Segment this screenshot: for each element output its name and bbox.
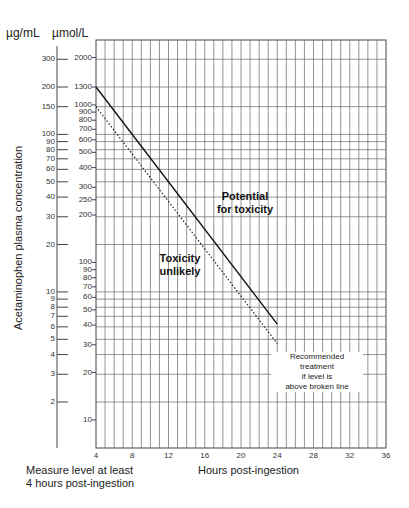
x-tick-label: 16 xyxy=(200,451,209,460)
ug-tick-label: 80 xyxy=(20,146,55,154)
x-tick-label: 12 xyxy=(164,451,173,460)
umol-tick-label: 30 xyxy=(58,341,92,349)
umol-tick-label: 500 xyxy=(58,148,92,156)
ug-tick-label: 300 xyxy=(20,55,55,63)
umol-tick-label: 20 xyxy=(58,369,92,377)
x-tick-label: 24 xyxy=(273,451,282,460)
ug-tick-label: 60 xyxy=(20,165,55,173)
ug-tick-label: 200 xyxy=(20,83,55,91)
umol-tick-label: 70 xyxy=(58,283,92,291)
umol-tick-label: 600 xyxy=(58,136,92,144)
ug-tick-label: 5 xyxy=(20,335,55,343)
treatment-note-line2: if level is xyxy=(272,372,362,382)
ug-tick-label: 6 xyxy=(20,323,55,331)
ug-tick-label: 50 xyxy=(20,178,55,186)
umol-tick-label: 10 xyxy=(58,416,92,424)
x-tick-label: 36 xyxy=(382,451,391,460)
x-axis-label: Hours post-ingestion xyxy=(198,464,299,477)
ug-tick-label: 150 xyxy=(20,103,55,111)
umol-tick-label: 1300 xyxy=(58,83,92,91)
ug-tick-label: 20 xyxy=(20,241,55,249)
umol-tick-label: 400 xyxy=(58,164,92,172)
umol-tick-label: 250 xyxy=(58,196,92,204)
umol-tick-label: 2000 xyxy=(58,54,92,62)
potential-toxicity-line2: for toxicity xyxy=(205,203,285,216)
ug-tick-label: 30 xyxy=(20,213,55,221)
treatment-note-line3: above broken line xyxy=(272,382,362,392)
umol-tick-label: 200 xyxy=(58,211,92,219)
ug-tick-label: 70 xyxy=(20,155,55,163)
x-tick-label: 20 xyxy=(237,451,246,460)
ug-tick-label: 8 xyxy=(20,303,55,311)
ug-tick-label: 9 xyxy=(20,295,55,303)
potential-toxicity-label: Potential for toxicity xyxy=(205,190,285,216)
treatment-note: Recommended treatment if level is above … xyxy=(271,352,363,392)
umol-tick-label: 700 xyxy=(58,125,92,133)
umol-tick-label: 60 xyxy=(58,293,92,301)
ug-tick-label: 3 xyxy=(20,370,55,378)
umol-tick-label: 40 xyxy=(58,321,92,329)
x-tick-label: 4 xyxy=(94,451,98,460)
ug-tick-label: 7 xyxy=(20,312,55,320)
x-tick-label: 32 xyxy=(345,451,354,460)
ug-tick-label: 2 xyxy=(20,398,55,406)
toxicity-unlikely-label: Toxicity unlikely xyxy=(145,252,215,278)
umol-tick-label: 800 xyxy=(58,116,92,124)
ug-tick-label: 40 xyxy=(20,193,55,201)
toxicity-unlikely-line2: unlikely xyxy=(145,265,215,278)
x-tick-label: 28 xyxy=(309,451,318,460)
potential-toxicity-line1: Potential xyxy=(205,190,285,203)
umol-tick-label: 80 xyxy=(58,274,92,282)
umol-tick-label: 300 xyxy=(58,183,92,191)
toxicity-unlikely-line1: Toxicity xyxy=(145,252,215,265)
footnote-line1: Measure level at least xyxy=(26,464,134,477)
footnote-line2: 4 hours post-ingestion xyxy=(26,477,134,490)
umol-tick-label: 50 xyxy=(58,306,92,314)
ug-tick-label: 4 xyxy=(20,351,55,359)
treatment-note-line1: Recommended treatment xyxy=(272,352,362,372)
x-tick-label: 8 xyxy=(130,451,134,460)
footnote: Measure level at least 4 hours post-inge… xyxy=(26,464,134,490)
